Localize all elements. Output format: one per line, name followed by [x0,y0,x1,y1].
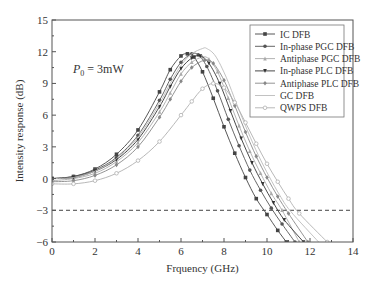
y-tick-label: 15 [37,14,49,26]
x-axis-label: Frquency (GHz) [166,262,239,275]
legend-label: Antiphase PGC DFB [280,54,360,64]
x-tick-label: 0 [49,245,55,257]
y-tick-label: 9 [43,77,49,89]
x-tick-label: 4 [135,245,141,257]
legend-label: In-phase PLC DFB [280,66,353,76]
x-tick-label: 2 [92,245,98,257]
x-tick-label: 6 [178,245,184,257]
y-tick-label: 3 [43,141,49,153]
x-tick-label: 10 [262,245,274,257]
x-tick-label: 14 [348,245,360,257]
x-tick-label: 12 [305,245,316,257]
legend-label: IC DFB [280,30,310,40]
x-tick-label: 8 [221,245,227,257]
intensity-response-chart: 02468101214−6−303691215Frquency (GHz)Int… [0,0,378,285]
y-tick-label: −6 [36,236,48,248]
power-annotation: P0 = 3mW [72,62,124,78]
y-tick-label: −3 [36,204,48,216]
legend-label: QWPS DFB [280,103,327,113]
legend-label: In-phase PGC DFB [280,42,354,52]
y-tick-label: 6 [43,109,49,121]
legend-label: Antiphase PLC DFB [280,79,359,89]
y-tick-label: 12 [37,46,48,58]
y-tick-label: 0 [43,173,49,185]
y-axis-label: Intensity response (dB) [13,79,26,182]
legend-label: GC DFB [280,91,314,101]
